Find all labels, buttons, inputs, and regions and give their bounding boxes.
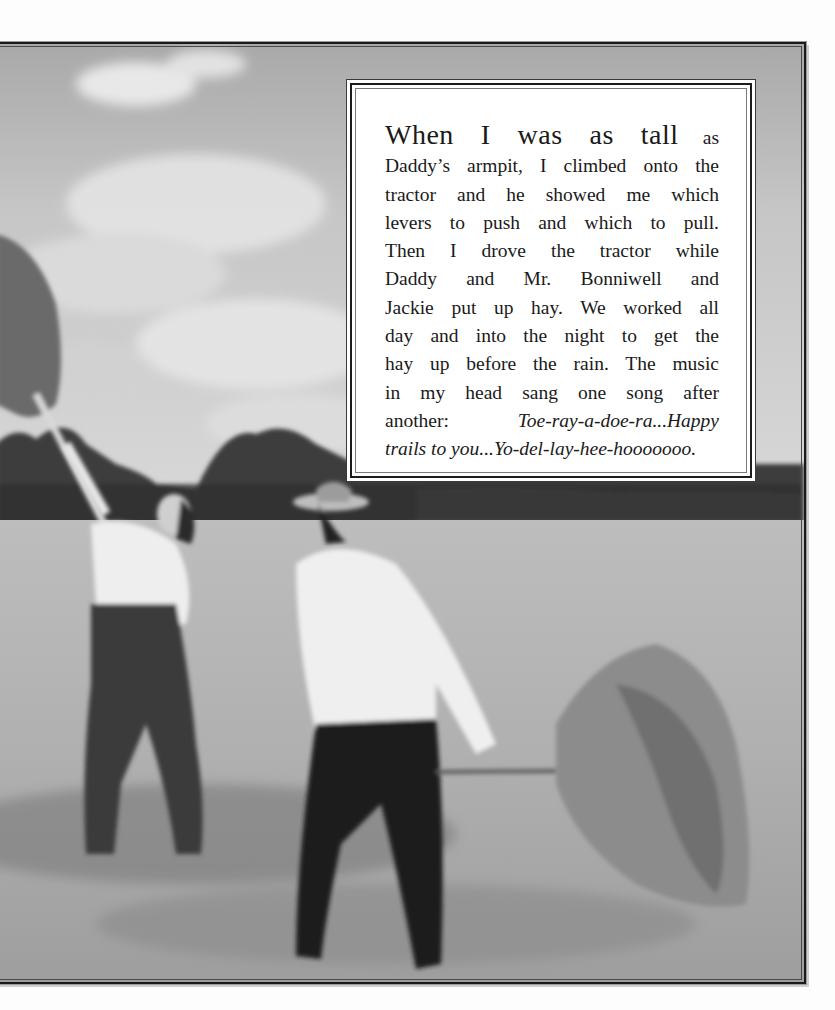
story-lead-phrase: When I was as tall <box>385 119 678 150</box>
story-text-panel: When I was as tall as Daddy’s armpit, I … <box>350 83 752 478</box>
story-text-fragment: as <box>703 127 719 148</box>
story-line-1: When I was as tall as <box>385 121 719 152</box>
story-line-3: tractor and he showed me which <box>385 181 719 209</box>
book-page: When I was as tall as Daddy’s armpit, I … <box>0 0 835 1010</box>
story-line-4: levers to push and which to pull. <box>385 209 719 237</box>
story-line-2: Daddy’s armpit, I climbed onto the <box>385 152 719 180</box>
story-line-5: Then I drove the tractor while <box>385 237 719 265</box>
story-line-10: in my head sang one song after <box>385 379 719 407</box>
story-line-7: Jackie put up hay. We worked all <box>385 294 719 322</box>
story-line-12: trails to you...Yo-del-lay-hee-hooooooo. <box>385 435 719 463</box>
story-line-8: day and into the night to get the <box>385 322 719 350</box>
song-lyrics: Toe-ray-a-doe-ra...Happy <box>518 410 719 431</box>
story-line-6: Daddy and Mr. Bonniwell and <box>385 265 719 293</box>
story-text: When I was as tall as Daddy’s armpit, I … <box>385 121 719 464</box>
story-line-9: hay up before the rain. The music <box>385 350 719 378</box>
story-text-fragment: another: <box>385 410 449 431</box>
story-line-11: another: Toe-ray-a-doe-ra...Happy <box>385 407 719 435</box>
